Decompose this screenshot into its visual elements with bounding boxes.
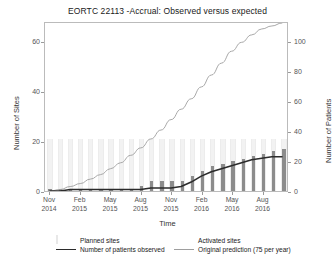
axis-tick-mark bbox=[288, 192, 291, 193]
dark-line-swatch-icon bbox=[56, 245, 76, 253]
axis-tick-mark bbox=[232, 192, 233, 195]
y-right-tick-60: 60 bbox=[294, 98, 320, 105]
legend-item-original-prediction: Original prediction (75 per year) bbox=[174, 245, 291, 253]
legend-label-activated-sites: Activated sites bbox=[198, 237, 241, 244]
axis-tick-mark bbox=[110, 192, 111, 195]
y-left-tick-60: 60 bbox=[14, 38, 40, 45]
x-tick-month: Aug bbox=[243, 196, 283, 205]
legend-label-planned-sites: Planned sites bbox=[80, 237, 120, 244]
y-right-tick-40: 40 bbox=[294, 128, 320, 135]
axis-tick-mark bbox=[288, 42, 291, 43]
axis-tick-mark bbox=[288, 132, 291, 133]
axis-tick-mark bbox=[263, 192, 264, 195]
axis-tick-mark bbox=[288, 72, 291, 73]
original-prediction-line bbox=[50, 23, 282, 191]
y-right-tick-20: 20 bbox=[294, 158, 320, 165]
axis-tick-mark bbox=[288, 162, 291, 163]
axis-tick-mark bbox=[171, 192, 172, 195]
axis-tick-mark bbox=[41, 42, 44, 43]
chart-title: EORTC 22113 -Accrual: Observed versus ex… bbox=[0, 6, 335, 16]
axis-tick-mark bbox=[80, 192, 81, 195]
y-left-tick-20: 20 bbox=[14, 138, 40, 145]
y-right-tick-0: 0 bbox=[294, 188, 320, 195]
axis-tick-mark bbox=[41, 142, 44, 143]
x-tick-year: 2016 bbox=[243, 205, 283, 214]
chart-root: EORTC 22113 -Accrual: Observed versus ex… bbox=[0, 0, 335, 262]
patients-observed-line bbox=[50, 157, 282, 191]
plot-area bbox=[44, 22, 288, 192]
y-axis-right-title: Number of Patients bbox=[324, 99, 333, 163]
axis-tick-mark bbox=[49, 192, 50, 195]
legend-label-patients-observed: Number of patients observed bbox=[80, 246, 165, 253]
y-right-tick-80: 80 bbox=[294, 68, 320, 75]
y-left-tick-40: 40 bbox=[14, 88, 40, 95]
axis-tick-mark bbox=[141, 192, 142, 195]
y-right-tick-100: 100 bbox=[294, 38, 320, 45]
x-tick-Aug-2016: Aug2016 bbox=[243, 196, 283, 213]
axis-tick-mark bbox=[41, 192, 44, 193]
axis-tick-mark bbox=[41, 92, 44, 93]
y-left-tick-0: 0 bbox=[14, 188, 40, 195]
x-axis-title: Time bbox=[0, 219, 335, 228]
activated-square-swatch-icon bbox=[174, 236, 194, 244]
legend-item-planned-sites: Planned sites bbox=[56, 236, 120, 244]
planned-square-swatch-icon bbox=[56, 236, 76, 244]
legend-item-activated-sites: Activated sites bbox=[174, 236, 241, 244]
axis-tick-mark bbox=[288, 102, 291, 103]
grey-line-swatch-icon bbox=[174, 245, 194, 253]
legend-label-original-prediction: Original prediction (75 per year) bbox=[198, 246, 291, 253]
series-lines bbox=[45, 23, 287, 191]
axis-tick-mark bbox=[202, 192, 203, 195]
legend-item-patients-observed: Number of patients observed bbox=[56, 245, 165, 253]
